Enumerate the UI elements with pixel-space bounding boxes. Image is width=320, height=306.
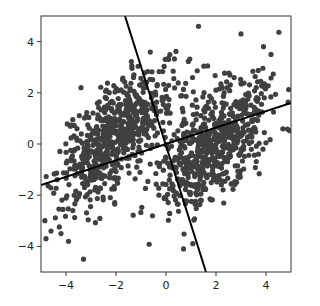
data-point [163,182,168,187]
data-point [235,114,240,119]
data-point [135,158,140,163]
data-point [258,79,263,84]
data-point [66,206,71,211]
data-point [219,166,224,171]
data-point [260,147,265,152]
data-point [76,194,81,199]
fit-lines [41,16,291,272]
data-point [240,158,245,163]
data-point [119,102,124,107]
data-point [28,209,33,214]
data-point [126,170,131,175]
data-point [88,204,93,209]
data-point [127,99,132,104]
data-point [207,148,212,153]
data-point [154,100,159,105]
data-point [220,187,225,192]
data-point [222,171,227,176]
data-point [98,118,103,123]
data-point [213,73,218,78]
data-point [184,130,189,135]
data-point [139,205,144,210]
data-point [53,215,58,220]
data-point [69,122,74,127]
data-point [90,110,95,115]
data-point [134,165,139,170]
data-point [114,151,119,156]
data-point [70,117,75,122]
data-point [201,159,206,164]
data-point [137,170,142,175]
data-point [93,140,98,145]
data-point [156,193,161,198]
data-point [43,236,48,241]
data-point [213,88,218,93]
data-point [131,121,136,126]
data-point [78,85,83,90]
data-point [169,144,174,149]
data-point [164,94,169,99]
data-point [140,122,145,127]
data-point [167,120,172,125]
data-point [153,171,158,176]
data-point [87,163,92,168]
data-point [195,154,200,159]
data-point [178,93,183,98]
data-point [144,143,149,148]
data-point [108,141,113,146]
data-point [160,69,165,74]
data-point [64,160,69,165]
data-point [97,99,102,104]
data-point [131,75,136,80]
data-point [123,127,128,132]
data-point [134,109,139,114]
data-point [54,186,59,191]
data-point [171,69,176,74]
data-point [112,200,117,205]
data-point [115,138,120,143]
data-point [51,191,56,196]
data-point [144,132,149,137]
data-point [104,131,109,136]
data-point [212,160,217,165]
data-point [263,140,268,145]
data-point [172,85,177,90]
data-point [70,208,75,213]
data-point [181,87,186,92]
data-point [181,231,186,236]
data-point [244,138,249,143]
data-point [98,85,103,90]
data-point [190,103,195,108]
data-point [94,125,99,130]
data-point [161,102,166,107]
data-point [161,168,166,173]
data-point [249,134,254,139]
data-point [253,107,258,112]
data-point [129,59,134,64]
data-point [123,98,128,103]
data-point [97,170,102,175]
data-point [257,141,262,146]
data-point [72,215,77,220]
data-point [57,149,62,154]
data-point [85,144,90,149]
data-point [86,115,91,120]
data-point [95,189,100,194]
data-point [254,159,259,164]
data-point [133,176,138,181]
data-point [248,103,253,108]
data-point [167,173,172,178]
data-point [136,144,141,149]
data-point [111,184,116,189]
data-point [189,169,194,174]
data-point [225,176,230,181]
data-point [138,210,143,215]
data-point [124,92,129,97]
data-point [219,161,224,166]
data-point [221,101,226,106]
data-point [182,117,187,122]
data-point [182,159,187,164]
data-point [261,44,266,49]
data-point [206,118,211,123]
data-point [219,110,224,115]
